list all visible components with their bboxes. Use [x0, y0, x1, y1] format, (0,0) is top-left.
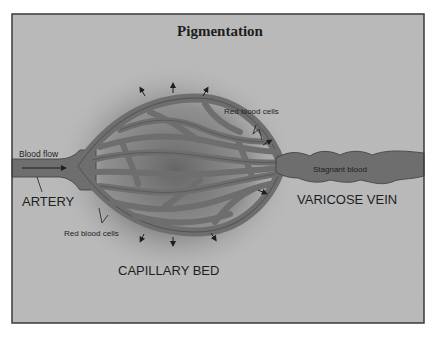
label-stagnant-blood: Stagnant blood	[313, 165, 367, 174]
label-varicose-vein: VARICOSE VEIN	[297, 192, 397, 207]
label-blood-flow: Blood flow	[19, 149, 59, 159]
label-red-blood-cells-bottom: Red blood cells	[64, 229, 119, 238]
figure-title: Pigmentation	[177, 23, 263, 39]
pigmentation-diagram: Pigmentation Blood flow ARTERY Red blood…	[0, 0, 434, 339]
label-artery: ARTERY	[22, 194, 75, 209]
label-red-blood-cells-top: Red blood cells	[224, 107, 279, 116]
label-capillary-bed: CAPILLARY BED	[118, 263, 219, 278]
